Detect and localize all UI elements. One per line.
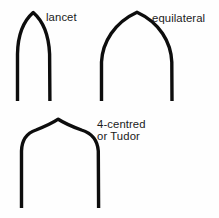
lancet-arch-shape bbox=[18, 13, 50, 102]
equilateral-label-text: equilateral bbox=[152, 12, 205, 24]
tudor-arch-path bbox=[22, 119, 99, 208]
tudor-label: 4-centred or Tudor bbox=[97, 118, 146, 143]
lancet-label: lancet bbox=[46, 11, 77, 23]
equilateral-arch-path bbox=[102, 12, 173, 101]
tudor-label-line-1: 4-centred bbox=[97, 118, 146, 130]
lancet-label-text: lancet bbox=[46, 11, 77, 23]
arch-shapes-svg bbox=[0, 0, 219, 218]
equilateral-label: equilateral bbox=[152, 12, 205, 24]
lancet-arch-path bbox=[18, 13, 50, 102]
tudor-arch-shape bbox=[22, 119, 99, 208]
equilateral-arch-shape bbox=[102, 12, 173, 101]
arch-types-diagram: lancet equilateral 4-centred or Tudor bbox=[0, 0, 219, 218]
tudor-label-line-2: or Tudor bbox=[97, 130, 146, 142]
